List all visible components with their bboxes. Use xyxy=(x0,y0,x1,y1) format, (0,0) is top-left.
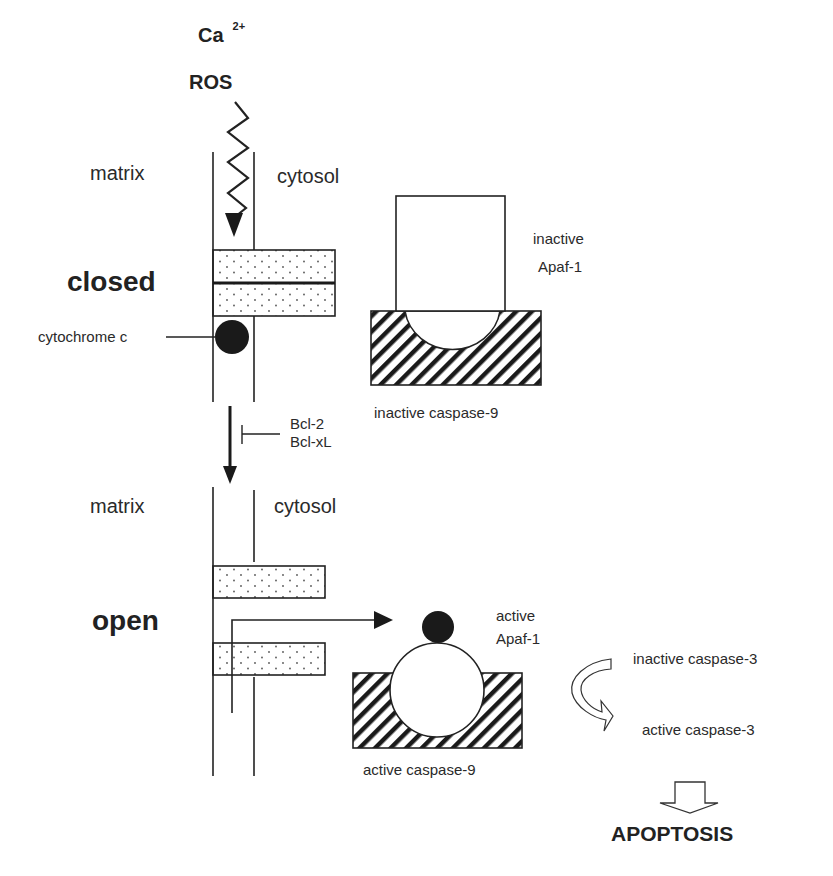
calcium-label: Ca2+ xyxy=(198,25,245,45)
closed-pore xyxy=(213,250,335,316)
membrane-open xyxy=(213,487,254,776)
inhibition-bar xyxy=(242,425,280,444)
inactive-apaf-label-2: Apaf-1 xyxy=(538,259,582,274)
ros-signal-arrow xyxy=(225,102,248,237)
inactive-complex xyxy=(371,196,541,385)
open-state-label: open xyxy=(92,607,159,635)
closed-state-label: closed xyxy=(67,268,156,296)
inactive-caspase9-label: inactive caspase-9 xyxy=(374,405,498,420)
cytochrome-c-icon xyxy=(166,320,249,354)
matrix-label-top: matrix xyxy=(90,163,144,183)
active-apaf-label-1: active xyxy=(496,608,535,623)
matrix-label-bottom: matrix xyxy=(90,496,144,516)
active-caspase9-label: active caspase-9 xyxy=(363,762,476,777)
active-apaf-label-2: Apaf-1 xyxy=(496,631,540,646)
active-caspase3-label: active caspase-3 xyxy=(642,722,755,737)
calcium-charge: 2+ xyxy=(233,20,246,32)
curved-arrow-icon xyxy=(572,659,613,731)
bclxl-label: Bcl-xL xyxy=(290,434,332,449)
cytosol-label-bottom: cytosol xyxy=(274,496,336,516)
inactive-caspase3-label: inactive caspase-3 xyxy=(633,651,757,666)
cytosol-label-top: cytosol xyxy=(277,166,339,186)
hollow-down-arrow-icon xyxy=(660,782,718,813)
apoptosis-label: APOPTOSIS xyxy=(611,823,733,844)
bcl2-label: Bcl-2 xyxy=(290,416,324,431)
inactive-apaf-label-1: inactive xyxy=(533,231,584,246)
transition-arrow xyxy=(223,406,237,484)
cytochrome-c-label: cytochrome c xyxy=(38,329,127,344)
diagram-canvas xyxy=(0,0,833,876)
ros-label: ROS xyxy=(189,72,232,92)
